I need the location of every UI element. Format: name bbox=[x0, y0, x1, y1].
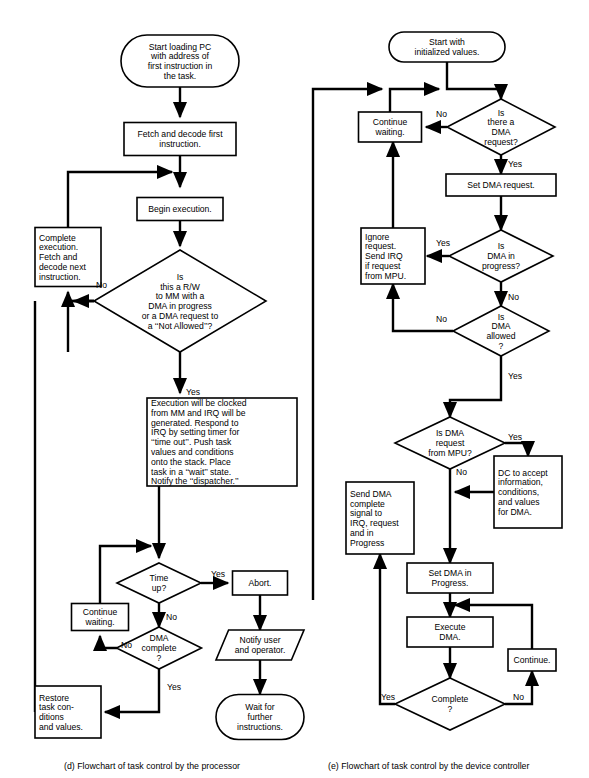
node-label-line: a ‘‘Not Allowed’’? bbox=[148, 321, 213, 331]
panel-e-connectors bbox=[313, 62, 532, 704]
node-label-line: request. bbox=[365, 241, 396, 251]
node-e_contwait: Continuewaiting. bbox=[359, 112, 422, 142]
node-label-line: Abort. bbox=[249, 578, 272, 588]
node-label-line: DMA. bbox=[439, 632, 460, 642]
node-label-line: Execute bbox=[434, 622, 465, 632]
node-d_timeup: Timeup? bbox=[117, 563, 201, 603]
node-label-line: waiting. bbox=[84, 617, 114, 627]
node-label-line: decode next bbox=[39, 262, 86, 272]
node-label-line: task con- bbox=[39, 702, 74, 712]
node-label-line: waiting. bbox=[374, 127, 404, 137]
node-e_start: Start withinitialized values. bbox=[389, 32, 505, 62]
node-label-line: further bbox=[248, 712, 273, 722]
node-label-line: DMA bbox=[491, 321, 510, 331]
node-label-line: up? bbox=[152, 583, 167, 593]
node-label-line: first instruction in bbox=[148, 61, 213, 71]
node-label-line: request bbox=[436, 438, 465, 448]
figure-root: Start loading PCwith address offirst ins… bbox=[0, 0, 589, 778]
node-label-line: Is bbox=[498, 241, 505, 251]
node-label-line: Start with bbox=[429, 37, 465, 47]
node-e_complete: Complete? bbox=[395, 678, 505, 730]
node-label-line: Complete bbox=[39, 233, 76, 243]
node-label-line: the task. bbox=[164, 71, 196, 81]
edge-label: No bbox=[513, 692, 524, 702]
node-label-line: Is bbox=[498, 108, 505, 118]
node-label-line: DMA in bbox=[487, 251, 515, 261]
node-label-line: Continue bbox=[83, 607, 118, 617]
node-label-line: Continue bbox=[373, 117, 408, 127]
node-label-line: ? bbox=[499, 341, 504, 351]
node-d_contwait: Continuewaiting. bbox=[72, 604, 129, 631]
node-label-line: Continue. bbox=[514, 655, 551, 665]
node-label-line: IRQ, request bbox=[350, 518, 399, 528]
node-d_notify: Notify userand operator. bbox=[216, 630, 304, 660]
edge-label: No bbox=[436, 314, 447, 324]
node-label-line: complete bbox=[350, 499, 385, 509]
edge-label: No bbox=[456, 467, 467, 477]
node-label-line: progress? bbox=[482, 261, 520, 271]
flowchart-canvas: Start loading PCwith address offirst ins… bbox=[0, 0, 589, 778]
node-label-line: signal to bbox=[350, 508, 382, 518]
node-label-line: there a bbox=[488, 117, 515, 127]
caption-panel-e: (e) Flowchart of task control by the dev… bbox=[328, 761, 530, 771]
node-label-line: ‘‘time out’’. Push task bbox=[151, 437, 232, 447]
node-label-line: Fetch and decode first bbox=[137, 129, 223, 139]
node-e_dcaccept: DC to acceptinformation,conditions,and v… bbox=[494, 456, 562, 528]
node-e_setinprog: Set DMA inProgress. bbox=[407, 563, 493, 593]
node-e_inprog: IsDMA inprogress? bbox=[449, 230, 553, 282]
node-label-line: ? bbox=[157, 653, 162, 663]
edge-label: No bbox=[96, 280, 107, 290]
node-e_setreq: Set DMA request. bbox=[446, 174, 556, 196]
edge-label: Yes bbox=[508, 432, 522, 442]
node-e_allowed: IsDMAallowed? bbox=[453, 306, 549, 356]
node-label-line: and values bbox=[498, 497, 540, 507]
node-label-line: for DMA. bbox=[498, 507, 532, 517]
node-label-line: Ignore bbox=[365, 232, 390, 242]
edge-label: No bbox=[166, 612, 177, 622]
node-d_begin: Begin execution. bbox=[137, 198, 223, 221]
node-label-line: Notify user bbox=[239, 635, 280, 645]
node-label-line: this a R/W bbox=[160, 282, 201, 292]
node-label-line: Start loading PC bbox=[149, 42, 212, 52]
edge-label: Yes bbox=[211, 569, 225, 579]
node-label-line: Progress bbox=[350, 538, 384, 548]
node-label-line: initialized values. bbox=[415, 47, 480, 57]
node-label-line: ditions bbox=[39, 712, 64, 722]
node-e_frommpu: Is DMArequestfrom MPU? bbox=[395, 417, 505, 469]
node-label-line: instructions. bbox=[237, 722, 283, 732]
node-d_exec: Execution will be clockedfrom MM and IRQ… bbox=[147, 398, 297, 486]
node-label-line: IRQ by setting timer for bbox=[151, 427, 239, 437]
node-label-line: Time bbox=[150, 573, 169, 583]
node-label-line: Is bbox=[177, 272, 184, 282]
node-label-line: conditions, bbox=[498, 487, 539, 497]
node-label-line: instruction. bbox=[159, 139, 201, 149]
node-e_ignore: Ignorerequest.Send IRQif requestfrom MPU… bbox=[361, 228, 425, 284]
node-label-line: and operator. bbox=[235, 645, 286, 655]
node-d_start: Start loading PCwith address offirst ins… bbox=[121, 35, 239, 87]
edge-label: No bbox=[436, 109, 447, 119]
node-d_wait: Wait forfurtherinstructions. bbox=[216, 695, 304, 740]
node-label-line: DMA bbox=[491, 127, 510, 137]
edge-label: No bbox=[121, 640, 132, 650]
edge-label: Yes bbox=[508, 159, 522, 169]
node-label-line: ? bbox=[448, 704, 453, 714]
node-label-line: task in a ‘‘wait’’ state. bbox=[151, 467, 231, 477]
node-label-line: Is bbox=[498, 312, 505, 322]
node-label-line: Set DMA in bbox=[429, 568, 472, 578]
node-label-line: information, bbox=[498, 477, 543, 487]
node-e_senddma: Send DMAcompletesignal toIRQ, requestand… bbox=[346, 482, 414, 554]
node-label-line: Is DMA bbox=[436, 428, 464, 438]
node-label-line: DC to accept bbox=[498, 468, 548, 478]
node-d_fetch: Fetch and decode firstinstruction. bbox=[124, 123, 236, 156]
node-d_isrw: Isthis a R/Wto MM with aDMA in progresso… bbox=[94, 250, 266, 352]
node-label-line: Execution will be clocked bbox=[151, 398, 247, 408]
node-label-line: instruction. bbox=[39, 272, 81, 282]
node-label-line: allowed bbox=[486, 331, 515, 341]
node-label-line: if request bbox=[365, 261, 401, 271]
node-label-line: Wait for bbox=[245, 702, 274, 712]
node-label-line: Send IRQ bbox=[365, 251, 403, 261]
node-label-line: from MPU. bbox=[365, 271, 406, 281]
edge-label: Yes bbox=[508, 371, 522, 381]
node-label-line: Progress. bbox=[432, 578, 469, 588]
node-label-line: execution. bbox=[39, 242, 78, 252]
